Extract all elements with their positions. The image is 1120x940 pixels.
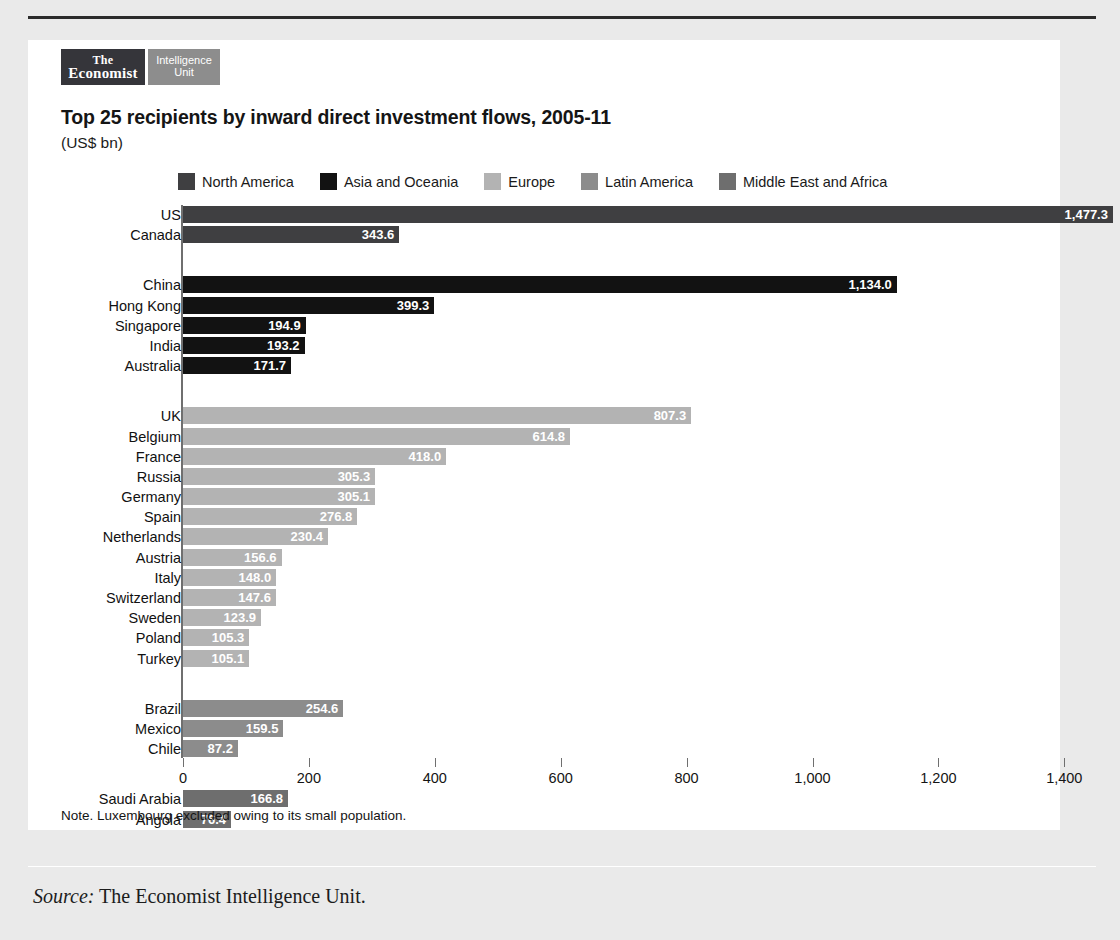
bar[interactable]: 305.3 — [183, 468, 375, 485]
bar[interactable]: 399.3 — [183, 297, 434, 314]
x-axis-tick-label: 600 — [549, 770, 573, 786]
bar-row[interactable]: Austria156.6 — [28, 548, 1060, 568]
bar-track: 343.6 — [183, 226, 399, 243]
bar[interactable]: 614.8 — [183, 428, 570, 445]
legend-label: Asia and Oceania — [344, 174, 458, 190]
bar[interactable]: 171.7 — [183, 357, 291, 374]
bar[interactable]: 194.9 — [183, 317, 306, 334]
bar-row-label: Austria — [0, 548, 181, 568]
x-axis-tick-label: 200 — [297, 770, 321, 786]
bar-row[interactable]: US1,477.3 — [28, 205, 1060, 225]
legend-label: North America — [202, 174, 294, 190]
bar-row[interactable]: Germany305.1 — [28, 487, 1060, 507]
bar-value-label: 148.0 — [239, 569, 272, 586]
bar-row[interactable]: Netherlands230.4 — [28, 527, 1060, 547]
legend-item[interactable]: North America — [178, 173, 294, 190]
bar[interactable]: 105.3 — [183, 629, 249, 646]
bar-row[interactable]: UK807.3 — [28, 406, 1060, 426]
bar[interactable]: 1,477.3 — [183, 206, 1113, 223]
chart-subtitle: (US$ bn) — [61, 134, 123, 152]
bar-row-label: US — [0, 205, 181, 225]
bar-track: 305.3 — [183, 468, 375, 485]
bar-row-label: Russia — [0, 467, 181, 487]
bar[interactable]: 147.6 — [183, 589, 276, 606]
bar-row-label: Hong Kong — [0, 296, 181, 316]
bar-value-label: 1,134.0 — [848, 276, 891, 293]
bar[interactable]: 148.0 — [183, 569, 276, 586]
bar-row[interactable]: Canada343.6 — [28, 225, 1060, 245]
legend-item[interactable]: Middle East and Africa — [719, 173, 887, 190]
legend-item[interactable]: Europe — [484, 173, 555, 190]
source-line: Source: The Economist Intelligence Unit. — [33, 885, 366, 908]
bar-row[interactable]: Sweden123.9 — [28, 608, 1060, 628]
bar-row[interactable]: Chile87.2 — [28, 739, 1060, 759]
bar[interactable]: 418.0 — [183, 448, 446, 465]
bar-track: 807.3 — [183, 407, 691, 424]
bar-row[interactable]: Mexico159.5 — [28, 719, 1060, 739]
x-axis-tick-label: 1,400 — [1046, 770, 1082, 786]
x-axis-tick — [1064, 758, 1065, 767]
bar-row[interactable]: Switzerland147.6 — [28, 588, 1060, 608]
bar-value-label: 305.3 — [338, 468, 371, 485]
bar[interactable]: 807.3 — [183, 407, 691, 424]
page: The Economist Intelligence Unit Top 25 r… — [0, 0, 1120, 940]
bar-value-label: 1,477.3 — [1065, 206, 1108, 223]
plot-area: US1,477.3Canada343.6China1,134.0Hong Kon… — [28, 205, 1060, 785]
bar-value-label: 807.3 — [654, 407, 687, 424]
bar-value-label: 254.6 — [306, 700, 339, 717]
legend-item[interactable]: Latin America — [581, 173, 693, 190]
economist-logo: The Economist — [61, 49, 145, 85]
bar-row[interactable]: Russia305.3 — [28, 467, 1060, 487]
bar-row[interactable]: Italy148.0 — [28, 568, 1060, 588]
chart-title: Top 25 recipients by inward direct inves… — [61, 106, 611, 129]
bar-value-label: 156.6 — [244, 549, 277, 566]
bar-track: 194.9 — [183, 317, 306, 334]
bar-rows: US1,477.3Canada343.6China1,134.0Hong Kon… — [28, 205, 1060, 830]
bar-track: 399.3 — [183, 297, 434, 314]
bar-track: 123.9 — [183, 609, 261, 626]
bar-row[interactable]: Hong Kong399.3 — [28, 296, 1060, 316]
bar[interactable]: 123.9 — [183, 609, 261, 626]
bar[interactable]: 1,134.0 — [183, 276, 897, 293]
bar-row[interactable]: France418.0 — [28, 447, 1060, 467]
bar-track: 105.1 — [183, 650, 249, 667]
bar-value-label: 418.0 — [409, 448, 442, 465]
bar-value-label: 171.7 — [254, 357, 287, 374]
legend-label: Europe — [508, 174, 555, 190]
bar-value-label: 614.8 — [532, 428, 565, 445]
legend-swatch-icon — [178, 173, 195, 190]
bar-row[interactable]: China1,134.0 — [28, 275, 1060, 295]
bar-row-label: Poland — [0, 628, 181, 648]
bar-row[interactable]: Singapore194.9 — [28, 316, 1060, 336]
bar-row[interactable]: Spain276.8 — [28, 507, 1060, 527]
x-axis-tick — [938, 758, 939, 767]
bar[interactable]: 254.6 — [183, 700, 343, 717]
bar[interactable]: 156.6 — [183, 549, 282, 566]
bar[interactable]: 159.5 — [183, 720, 283, 737]
bar-track: 148.0 — [183, 569, 276, 586]
bar-row[interactable]: Australia171.7 — [28, 356, 1060, 376]
x-axis-tick — [183, 758, 184, 767]
x-axis: 02004006008001,0001,2001,4001,600 — [28, 758, 1060, 804]
bar-row[interactable]: Brazil254.6 — [28, 699, 1060, 719]
bar-row[interactable]: India193.2 — [28, 336, 1060, 356]
bar-track: 418.0 — [183, 448, 446, 465]
legend-label: Middle East and Africa — [743, 174, 887, 190]
bar-row[interactable]: Poland105.3 — [28, 628, 1060, 648]
bar-value-label: 123.9 — [223, 609, 256, 626]
bar[interactable]: 305.1 — [183, 488, 375, 505]
bar[interactable]: 230.4 — [183, 528, 328, 545]
bar-row[interactable]: Belgium614.8 — [28, 427, 1060, 447]
bar-track: 87.2 — [183, 740, 238, 757]
bar[interactable]: 343.6 — [183, 226, 399, 243]
bar[interactable]: 276.8 — [183, 508, 357, 525]
bar-row[interactable]: Turkey105.1 — [28, 649, 1060, 669]
bar-row-label: France — [0, 447, 181, 467]
bar[interactable]: 87.2 — [183, 740, 238, 757]
bar[interactable]: 105.1 — [183, 650, 249, 667]
legend-item[interactable]: Asia and Oceania — [320, 173, 458, 190]
bar[interactable]: 193.2 — [183, 337, 305, 354]
bar-value-label: 276.8 — [320, 508, 353, 525]
x-axis-tick — [813, 758, 814, 767]
intelligence-unit-logo: Intelligence Unit — [148, 49, 220, 85]
